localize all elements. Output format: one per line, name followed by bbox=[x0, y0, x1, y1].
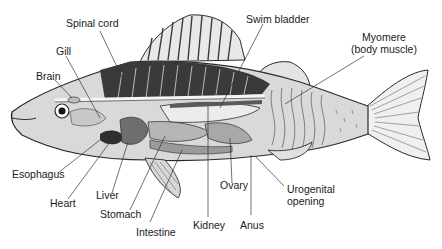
dorsal-fin bbox=[140, 15, 245, 62]
label-myomere-line2: (body muscle) bbox=[334, 43, 434, 55]
eye bbox=[55, 104, 69, 118]
label-myomere: Myomere (body muscle) bbox=[334, 31, 434, 55]
label-intestine: Intestine bbox=[136, 226, 176, 238]
fish-anatomy-diagram: Spinal cord Gill Brain Swim bladder Myom… bbox=[0, 0, 442, 249]
label-urogenital-line2: opening bbox=[287, 195, 335, 207]
label-brain: Brain bbox=[36, 70, 61, 82]
label-anus: Anus bbox=[240, 219, 264, 231]
caudal-fin bbox=[365, 70, 430, 160]
label-stomach: Stomach bbox=[100, 208, 141, 220]
label-gill: Gill bbox=[56, 45, 71, 57]
label-urogenital-line1: Urogenital bbox=[287, 183, 335, 195]
brain bbox=[68, 97, 80, 103]
label-esophagus: Esophagus bbox=[12, 168, 65, 180]
label-spinal-cord: Spinal cord bbox=[66, 17, 119, 29]
label-kidney: Kidney bbox=[193, 219, 225, 231]
label-ovary: Ovary bbox=[220, 179, 248, 191]
label-heart: Heart bbox=[50, 197, 76, 209]
label-liver: Liver bbox=[96, 189, 119, 201]
label-urogenital-opening: Urogenital opening bbox=[287, 183, 335, 207]
label-myomere-line1: Myomere bbox=[334, 31, 434, 43]
myomere-dark-band bbox=[100, 61, 270, 100]
pelvic-fin bbox=[145, 158, 180, 198]
label-swim-bladder: Swim bladder bbox=[246, 13, 310, 25]
